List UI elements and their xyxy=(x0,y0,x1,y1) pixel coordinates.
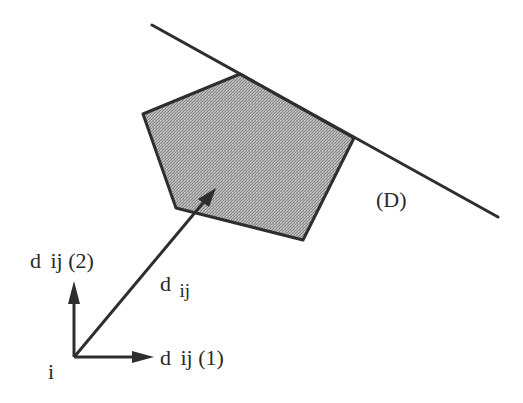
label-dij-1: d ij (1) xyxy=(160,345,224,370)
axis-dij1-arrowhead-icon xyxy=(132,351,154,363)
label-dij1-rest: ij (1) xyxy=(181,345,224,370)
diagram-canvas: (D) i d ij d ij (1) d ij (2) xyxy=(0,0,523,403)
label-dij-2: d ij (2) xyxy=(30,248,94,273)
vector-dij xyxy=(75,197,208,356)
label-dij2-main: d xyxy=(30,248,41,273)
label-D: (D) xyxy=(376,187,407,212)
label-dij-vector: d ij xyxy=(160,271,190,301)
label-origin-i: i xyxy=(48,359,54,384)
shaded-pentagon xyxy=(143,74,354,240)
label-dij2-rest: ij (2) xyxy=(51,248,94,273)
label-dij-sub: ij xyxy=(180,280,191,301)
label-dij1-main: d xyxy=(160,345,171,370)
label-dij-main: d xyxy=(160,271,171,296)
axis-dij2-arrowhead-icon xyxy=(68,281,80,304)
